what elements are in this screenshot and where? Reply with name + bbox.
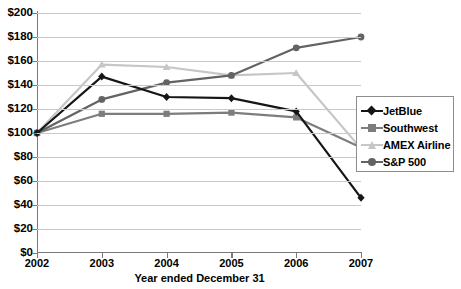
x-axis-tick-mark xyxy=(102,253,103,258)
series-jetblue xyxy=(33,73,364,202)
y-axis-tick-mark xyxy=(32,181,37,182)
gridline xyxy=(37,13,361,14)
legend-marker-circle-icon xyxy=(361,155,383,169)
y-axis-tick-mark xyxy=(32,205,37,206)
series-line xyxy=(37,77,361,198)
legend-label: AMEX Airline xyxy=(383,139,450,151)
y-axis-label: $20 xyxy=(2,223,33,235)
legend-label: JetBlue xyxy=(383,105,422,117)
x-axis-label: 2005 xyxy=(206,258,256,269)
x-axis-title: Year ended December 31 xyxy=(37,272,362,284)
x-axis-tick-mark xyxy=(296,253,297,258)
legend-label: Southwest xyxy=(383,122,438,134)
y-axis-label: $80 xyxy=(2,151,33,163)
legend-item: AMEX Airline xyxy=(361,136,453,153)
y-axis-tick-mark xyxy=(32,61,37,62)
data-point-marker xyxy=(228,94,235,102)
y-axis-label: $60 xyxy=(2,175,33,187)
y-axis-label: $140 xyxy=(2,79,33,91)
gridline xyxy=(37,37,361,38)
gridline xyxy=(37,181,361,182)
x-axis-label: 2006 xyxy=(271,258,321,269)
y-axis-label: $40 xyxy=(2,199,33,211)
legend-item: S&P 500 xyxy=(361,153,453,170)
series-southwest xyxy=(34,110,364,151)
y-axis-tick-labels: $0$20$40$60$80$100$120$140$160$180$200 xyxy=(0,0,33,289)
legend-marker-square-icon xyxy=(361,121,383,135)
gridline xyxy=(37,85,361,86)
x-axis-label: 2003 xyxy=(77,258,127,269)
x-axis-label: 2004 xyxy=(142,258,192,269)
stock-performance-line-chart: $0$20$40$60$80$100$120$140$160$180$200 Y… xyxy=(0,0,461,289)
y-axis-tick-mark xyxy=(32,85,37,86)
legend-marker-diamond-icon xyxy=(361,104,383,118)
gridline xyxy=(37,109,361,110)
data-point-marker xyxy=(99,111,105,117)
x-axis-label: 2002 xyxy=(12,258,62,269)
data-point-marker xyxy=(228,72,235,79)
legend-marker-triangle-icon xyxy=(361,138,383,152)
data-point-marker xyxy=(293,44,300,51)
gridline xyxy=(37,205,361,206)
x-axis-tick-mark xyxy=(361,253,362,258)
y-axis-tick-mark xyxy=(32,157,37,158)
y-axis-tick-mark xyxy=(32,229,37,230)
data-point-marker xyxy=(228,110,234,116)
data-point-marker xyxy=(163,93,170,101)
y-axis-tick-mark xyxy=(32,37,37,38)
y-axis-tick-mark xyxy=(32,13,37,14)
x-axis-tick-mark xyxy=(167,253,168,258)
y-axis-label: $200 xyxy=(2,7,33,19)
x-axis-tick-mark xyxy=(37,253,38,258)
data-point-marker xyxy=(98,96,105,103)
gridline xyxy=(37,157,361,158)
x-axis-tick-mark xyxy=(231,253,232,258)
plot-area xyxy=(37,13,361,253)
y-axis-label: $120 xyxy=(2,103,33,115)
legend-item: Southwest xyxy=(361,119,453,136)
y-axis-tick-mark xyxy=(32,109,37,110)
gridline xyxy=(37,133,361,134)
y-axis-label: $180 xyxy=(2,31,33,43)
y-axis-label: $160 xyxy=(2,55,33,67)
legend-label: S&P 500 xyxy=(383,156,426,168)
data-point-marker xyxy=(164,111,170,117)
legend-item: JetBlue xyxy=(361,102,453,119)
y-axis-label: $100 xyxy=(2,127,33,139)
series-line xyxy=(37,113,361,148)
chart-legend: JetBlueSouthwestAMEX AirlineS&P 500 xyxy=(356,96,454,172)
x-axis-label: 2007 xyxy=(336,258,386,269)
y-axis-tick-mark xyxy=(32,133,37,134)
gridline xyxy=(37,229,361,230)
gridline xyxy=(37,61,361,62)
